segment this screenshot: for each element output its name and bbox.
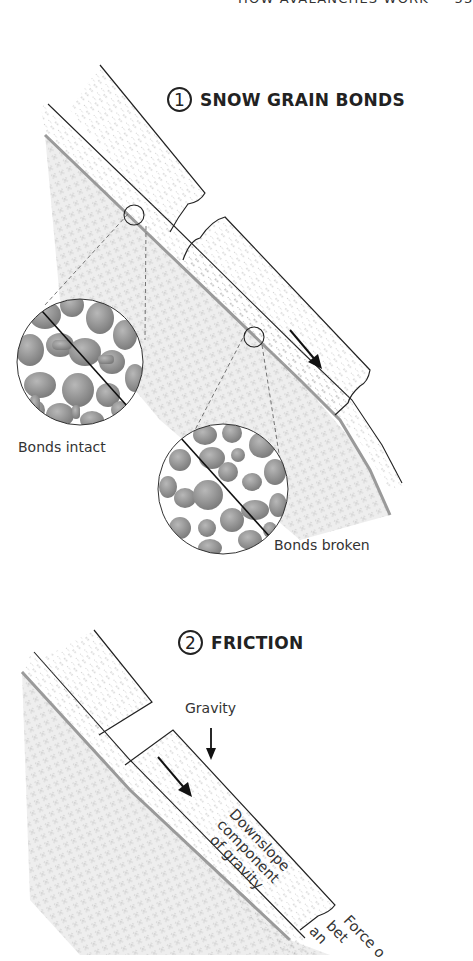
label-bonds-intact: Bonds intact — [18, 439, 106, 455]
inset-bonds-broken — [158, 423, 288, 557]
figure2-title: FRICTION — [211, 633, 304, 653]
page-number: 53 — [454, 0, 473, 6]
figure2-number-badge: 2 — [178, 630, 203, 655]
label-bonds-broken: Bonds broken — [274, 537, 370, 553]
figure1-heading: 1 SNOW GRAIN BONDS — [167, 87, 405, 112]
figure2-heading: 2 FRICTION — [178, 630, 304, 655]
figure1-title: SNOW GRAIN BONDS — [200, 90, 405, 110]
label-gravity: Gravity — [185, 700, 236, 716]
gravity-arrow-icon — [206, 728, 216, 760]
figure1-number-badge: 1 — [167, 87, 192, 112]
